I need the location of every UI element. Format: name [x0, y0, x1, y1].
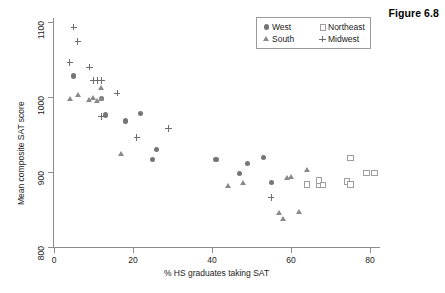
legend-row: West Northeast	[261, 21, 365, 33]
x-axis-tick-label: 80	[355, 255, 385, 265]
filled-triangle-icon	[261, 34, 272, 45]
legend-entry-south: South	[261, 34, 317, 45]
legend-entry-northeast: Northeast	[317, 22, 365, 33]
y-axis-tick-label: 1000	[36, 96, 46, 136]
legend-label-south: South	[272, 34, 294, 45]
figure-title: Figure 6.8	[388, 7, 439, 19]
legend-label-northeast: Northeast	[328, 22, 365, 33]
x-axis-tick-label: 40	[197, 255, 227, 265]
y-axis-tick-label: 1100	[36, 21, 46, 61]
scatter-plot-area	[54, 18, 379, 247]
filled-circle-icon	[261, 22, 272, 33]
legend-row: South Midwest	[261, 33, 365, 45]
x-axis-label: % HS graduates taking SAT	[53, 268, 380, 278]
x-axis-tick-label: 60	[276, 255, 306, 265]
legend-entry-west: West	[261, 22, 317, 33]
y-axis-tick-label: 900	[36, 171, 46, 211]
legend-label-midwest: Midwest	[328, 34, 359, 45]
legend-entry-midwest: Midwest	[317, 34, 359, 45]
chart-legend: West Northeast South Midwest	[256, 17, 371, 49]
x-axis-tick	[133, 248, 134, 253]
y-axis-tick	[48, 247, 54, 248]
x-axis-line	[53, 247, 380, 248]
open-square-icon	[317, 22, 328, 33]
y-axis-tick-label: 800	[36, 246, 46, 286]
x-axis-tick-label: 20	[118, 255, 148, 265]
plus-icon	[317, 34, 328, 45]
x-axis-tick	[54, 248, 55, 253]
y-axis-label: Mean composite SAT score	[16, 101, 26, 205]
x-axis-tick	[291, 248, 292, 253]
x-axis-tick	[212, 248, 213, 253]
x-axis-tick	[370, 248, 371, 253]
figure-container: Figure 6.8 02040608080090010001100 % HS …	[0, 0, 445, 293]
legend-label-west: West	[272, 22, 291, 33]
